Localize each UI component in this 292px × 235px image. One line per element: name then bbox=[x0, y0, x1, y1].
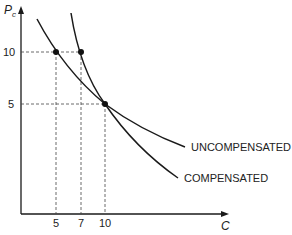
demand-curve-chart: P c 10 5 5 7 10 C UNCOMPENSATED COMPENSA… bbox=[0, 0, 292, 235]
x-axis-label: C bbox=[221, 219, 230, 233]
tick-x-7: 7 bbox=[78, 217, 84, 229]
tick-y-5: 5 bbox=[8, 98, 14, 110]
point-10-5 bbox=[102, 101, 108, 107]
point-7-10 bbox=[78, 49, 84, 55]
point-5-10 bbox=[53, 49, 59, 55]
x-axis-arrow-icon bbox=[221, 211, 229, 217]
compensated-curve bbox=[71, 13, 178, 178]
tick-y-10: 10 bbox=[3, 46, 15, 58]
compensated-label: COMPENSATED bbox=[184, 172, 268, 184]
uncompensated-curve bbox=[37, 19, 185, 147]
y-axis-arrow-icon bbox=[18, 6, 24, 14]
tick-x-5: 5 bbox=[53, 217, 59, 229]
uncompensated-label: UNCOMPENSATED bbox=[191, 141, 291, 153]
y-axis-label: P bbox=[4, 3, 12, 17]
tick-x-10: 10 bbox=[99, 217, 111, 229]
y-axis-subscript: c bbox=[12, 10, 16, 19]
